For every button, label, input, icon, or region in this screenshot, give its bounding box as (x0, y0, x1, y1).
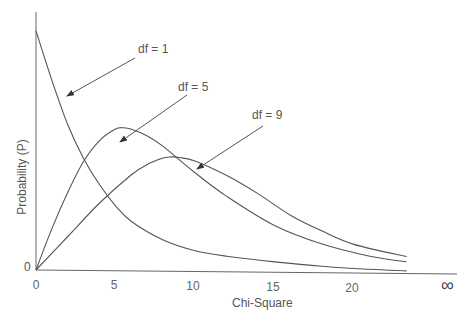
x-tick-15: 15 (266, 280, 279, 294)
annotation-df5: df = 5 (178, 80, 208, 94)
arrow-df9 (197, 126, 263, 169)
curve-df9 (36, 157, 407, 270)
x-tick-0: 0 (33, 278, 40, 292)
annotation-df9: df = 9 (252, 108, 282, 122)
arrow-df1 (67, 58, 135, 96)
y-tick-0: 0 (24, 260, 31, 274)
x-tick-infinity: ∞ (441, 275, 454, 296)
annotation-df1: df = 1 (138, 42, 168, 56)
y-axis-label-text: Probability (P) (15, 139, 29, 214)
x-axis-label: Chi-Square (232, 296, 293, 310)
curve-df5 (36, 128, 407, 270)
x-tick-20: 20 (345, 281, 358, 295)
chart-canvas (0, 0, 471, 316)
arrow-df5 (120, 95, 187, 142)
y-axis-label: Probability (P) (15, 127, 29, 227)
curve-df1 (36, 31, 407, 271)
x-tick-10: 10 (186, 279, 199, 293)
x-tick-5: 5 (111, 278, 118, 292)
